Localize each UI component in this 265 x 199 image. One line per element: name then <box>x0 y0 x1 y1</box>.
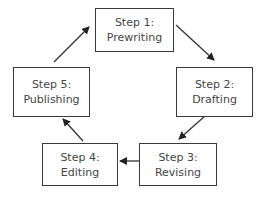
step-5-box: Step 5: Publishing <box>13 67 90 117</box>
step-1-box: Step 1: Prewriting <box>95 8 174 52</box>
step-4-box: Step 4: Editing <box>42 143 118 186</box>
step-2-box: Step 2: Drafting <box>176 67 253 117</box>
step-3-name: Revising <box>155 165 201 180</box>
step-4-name: Editing <box>61 165 99 180</box>
arrow-step2-to-step3 <box>179 116 205 139</box>
arrow-step5-to-step1 <box>54 27 89 62</box>
step-2-title: Step 2: <box>195 77 234 92</box>
step-3-box: Step 3: Revising <box>139 143 217 186</box>
step-2-name: Drafting <box>192 92 237 107</box>
step-5-title: Step 5: <box>32 77 71 92</box>
step-1-name: Prewriting <box>107 30 162 45</box>
arrow-step1-to-step2 <box>176 25 214 60</box>
step-4-title: Step 4: <box>60 150 99 165</box>
step-5-name: Publishing <box>23 92 79 107</box>
step-3-title: Step 3: <box>158 150 197 165</box>
arrow-step4-to-step5 <box>63 119 83 141</box>
step-1-title: Step 1: <box>115 15 154 30</box>
